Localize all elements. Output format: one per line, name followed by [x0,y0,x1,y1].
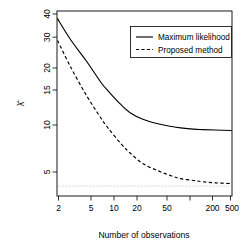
legend-label-maximum-likelihood: Maximum likelihood [158,33,230,42]
y-axis-ticks [53,14,58,172]
chart-legend: Maximum likelihood Proposed method [131,27,232,58]
series-proposed-method [58,40,232,183]
x-axis-ticks [59,196,231,201]
x-tick-label-500: 500 [225,203,239,213]
x-tick-label-10: 10 [109,203,119,213]
chart-figure: 40 30 20 15 10 5 λ̂ 2 5 10 20 50 200 [0,0,251,250]
x-tick-label-50: 50 [162,203,172,213]
y-tick-label-20: 20 [42,63,52,73]
x-tick-label-200: 200 [205,203,219,213]
x-axis-tick-labels: 2 5 10 20 50 200 500 [56,203,239,213]
y-tick-label-15: 15 [42,85,52,95]
y-axis-title: λ̂ [16,100,26,106]
x-tick-label-20: 20 [132,203,142,213]
y-tick-label-40: 40 [42,9,52,19]
y-tick-label-10: 10 [42,120,52,130]
legend-label-proposed-method: Proposed method [158,46,223,55]
chart-canvas: 40 30 20 15 10 5 λ̂ 2 5 10 20 50 200 [0,0,251,250]
y-tick-label-30: 30 [42,32,52,42]
y-tick-label-5: 5 [42,169,52,174]
x-tick-label-5: 5 [89,203,94,213]
y-axis-tick-labels: 40 30 20 15 10 5 [42,9,52,174]
x-tick-label-2: 2 [56,203,61,213]
x-axis-title: Number of observations [98,230,189,240]
